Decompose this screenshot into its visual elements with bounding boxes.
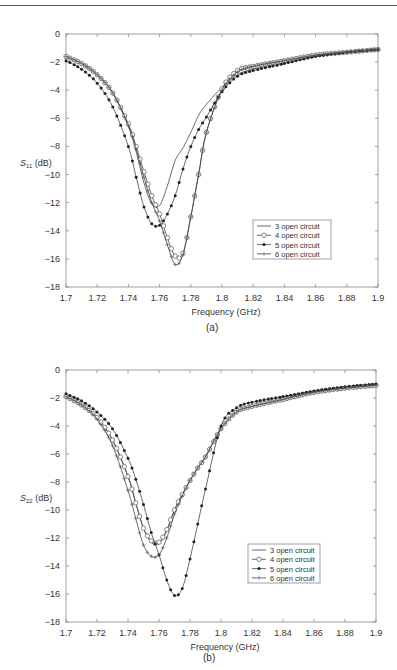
x-tick-label: 1.8 bbox=[215, 628, 228, 638]
chart-panel-b: 1.71.721.741.761.781.81.821.841.861.881.… bbox=[0, 0, 397, 670]
x-tick-label: 1.76 bbox=[150, 628, 168, 638]
x-tick-label: 1.74 bbox=[119, 628, 137, 638]
plot-area: 1.71.721.741.761.781.81.821.841.861.881.… bbox=[20, 365, 382, 652]
y-tick-label: −16 bbox=[45, 589, 60, 599]
legend: 3 open circuit4 open circuit5 open circu… bbox=[248, 544, 320, 583]
axes-frame bbox=[66, 370, 376, 622]
series-5-open-circuit bbox=[65, 383, 378, 597]
y-tick-label: −18 bbox=[45, 617, 60, 627]
x-tick-label: 1.9 bbox=[370, 628, 383, 638]
x-tick-label: 1.82 bbox=[243, 628, 261, 638]
chart-b-plot: 1.71.721.741.761.781.81.821.841.861.881.… bbox=[0, 0, 397, 670]
y-tick-label: −6 bbox=[50, 449, 60, 459]
series-3-open-circuit bbox=[66, 385, 376, 544]
series-6-open-circuit bbox=[64, 383, 378, 559]
y-tick-label: −8 bbox=[50, 477, 60, 487]
y-tick-label: −4 bbox=[50, 421, 60, 431]
x-tick-label: 1.78 bbox=[181, 628, 199, 638]
x-tick-label: 1.72 bbox=[88, 628, 106, 638]
x-tick-label: 1.86 bbox=[305, 628, 323, 638]
x-axis-label: Frequency (GHz) bbox=[190, 642, 259, 652]
y-axis-label: S22 (dB) bbox=[20, 493, 52, 504]
y-tick-label: −10 bbox=[45, 505, 60, 515]
svg-text:3 open circuit: 3 open circuit bbox=[270, 546, 316, 555]
x-tick-label: 1.88 bbox=[336, 628, 354, 638]
y-tick-label: −2 bbox=[50, 393, 60, 403]
y-tick-label: 0 bbox=[55, 365, 60, 375]
svg-text:5 open circuit: 5 open circuit bbox=[270, 565, 316, 574]
y-tick-label: −12 bbox=[45, 533, 60, 543]
panel-b-label: (b) bbox=[203, 652, 215, 663]
svg-text:6 open circuit: 6 open circuit bbox=[270, 574, 316, 583]
y-tick-label: −14 bbox=[45, 561, 60, 571]
svg-text:4 open circuit: 4 open circuit bbox=[270, 555, 316, 564]
x-tick-label: 1.84 bbox=[274, 628, 292, 638]
x-tick-label: 1.7 bbox=[60, 628, 73, 638]
series-4-open-circuit bbox=[64, 383, 378, 545]
